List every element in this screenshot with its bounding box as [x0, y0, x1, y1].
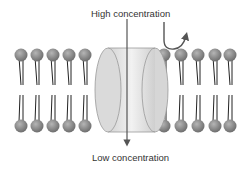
curved-arrow: [164, 22, 186, 49]
membrane-diagram: [0, 0, 250, 175]
high-concentration-label: High concentration: [91, 8, 170, 19]
channel-protein: [95, 48, 168, 132]
phospholipids-right: [158, 49, 237, 133]
phospholipids-left: [15, 49, 92, 133]
low-concentration-label: Low concentration: [92, 152, 169, 163]
